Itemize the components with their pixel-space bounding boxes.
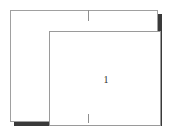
inner-rectangle[interactable]: 1 — [49, 31, 161, 126]
diagram-canvas: 1 — [0, 0, 176, 138]
region-label-1: 1 — [50, 32, 162, 127]
top-center-tick — [88, 10, 89, 21]
bottom-center-tick — [88, 114, 89, 123]
outer-rectangle[interactable]: 1 — [10, 10, 158, 122]
